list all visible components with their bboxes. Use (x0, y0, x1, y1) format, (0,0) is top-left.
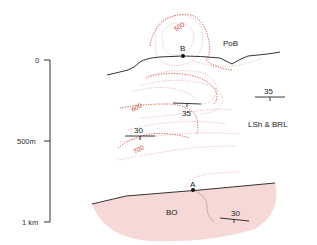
contour-label-600: 600 (130, 101, 143, 113)
contour-label-500: 500 (173, 20, 186, 32)
point-a-label: A (190, 180, 196, 189)
scale-label-1km: 1 km (22, 218, 38, 227)
dip-value-3: 30 (134, 126, 143, 135)
minor-contours (118, 15, 262, 186)
dip-value-4: 30 (231, 209, 240, 218)
dip-value-2: 35 (182, 109, 191, 118)
dip-value-1: 35 (264, 87, 273, 96)
point-b-marker (181, 54, 185, 58)
scale-bar (44, 60, 50, 222)
unit-label-pob: PoB (223, 39, 238, 48)
strike-dip-symbol-3 (125, 136, 155, 140)
unit-label-bo: BO (166, 208, 178, 217)
point-b-label: B (180, 44, 185, 53)
strike-dip-symbol-1 (255, 97, 285, 101)
unit-label-lsh-brl: LSh & BRL (248, 120, 288, 129)
scale-label-500m: 500m (17, 137, 36, 146)
geologic-map: 500 600 700 B A PoB LSh & BRL BO 35 35 3… (0, 0, 317, 245)
contour-label-700: 700 (132, 143, 145, 155)
scale-label-0: 0 (35, 56, 39, 65)
